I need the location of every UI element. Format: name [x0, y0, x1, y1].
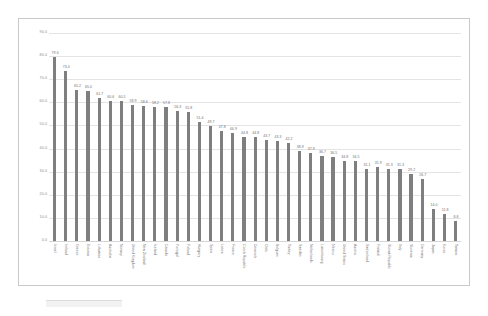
bar-column[interactable]: 34.8 — [339, 33, 350, 241]
bar-column[interactable]: 44.8 — [238, 33, 249, 241]
bar-column[interactable]: 46.9 — [227, 33, 238, 241]
bar-column[interactable]: 73.4 — [60, 33, 71, 241]
bar[interactable] — [287, 143, 290, 241]
x-axis-category: Sweden — [294, 243, 305, 283]
bar-column[interactable]: 58.6 — [138, 33, 149, 241]
bar[interactable] — [354, 161, 357, 241]
bar-column[interactable]: 8.8 — [450, 33, 461, 241]
x-axis-tick-label: Latvia — [220, 244, 223, 253]
bar-column[interactable]: 11.8 — [439, 33, 450, 241]
gridline — [49, 241, 461, 242]
bar-column[interactable]: 36.7 — [316, 33, 327, 241]
bar[interactable] — [153, 107, 156, 242]
bar-column[interactable]: 34.5 — [350, 33, 361, 241]
bar-column[interactable]: 65.0 — [82, 33, 93, 241]
bar-column[interactable]: 58.9 — [127, 33, 138, 241]
bar-value-label: 43.7 — [263, 135, 270, 139]
bar[interactable] — [398, 169, 401, 241]
y-axis-tick-label: 60.0 — [40, 101, 47, 105]
bar[interactable] — [376, 167, 379, 241]
bar[interactable] — [64, 71, 67, 241]
bar-column[interactable]: 55.8 — [183, 33, 194, 241]
bar-column[interactable]: 65.2 — [71, 33, 82, 241]
bar[interactable] — [198, 122, 201, 241]
bar-column[interactable]: 79.6 — [49, 33, 60, 241]
bar-column[interactable]: 49.7 — [205, 33, 216, 241]
x-axis-tick-label: Australia — [108, 244, 111, 258]
bar[interactable] — [365, 169, 368, 241]
bar-column[interactable]: 56.3 — [172, 33, 183, 241]
bar-column[interactable]: 31.9 — [372, 33, 383, 241]
bar-column[interactable]: 36.5 — [328, 33, 339, 241]
bar-value-label: 31.3 — [397, 164, 404, 168]
bar-column[interactable]: 31.3 — [394, 33, 405, 241]
bar-column[interactable]: 44.8 — [250, 33, 261, 241]
x-axis-tick-label: Sweden — [298, 244, 301, 257]
bar[interactable] — [231, 133, 234, 241]
bar[interactable] — [142, 106, 145, 241]
bar-column[interactable]: 31.3 — [383, 33, 394, 241]
bar-value-label: 36.5 — [330, 152, 337, 156]
bar-column[interactable]: 60.6 — [105, 33, 116, 241]
bar-column[interactable]: 60.5 — [116, 33, 127, 241]
bar-column[interactable]: 29.2 — [406, 33, 417, 241]
bar[interactable] — [309, 153, 312, 241]
x-axis-category: Norway — [116, 243, 127, 283]
bar[interactable] — [265, 140, 268, 241]
x-axis-category: Estonia — [82, 243, 93, 283]
bar[interactable] — [75, 90, 78, 241]
bar[interactable] — [432, 209, 435, 241]
bar[interactable] — [409, 174, 412, 241]
bar-column[interactable]: 47.8 — [216, 33, 227, 241]
bar[interactable] — [187, 112, 190, 241]
bar-column[interactable]: 43.3 — [272, 33, 283, 241]
bar-value-label: 29.2 — [408, 169, 415, 173]
bar-column[interactable]: 57.8 — [160, 33, 171, 241]
bar[interactable] — [164, 107, 167, 241]
bar[interactable] — [343, 161, 346, 241]
bar[interactable] — [86, 91, 89, 241]
bar[interactable] — [53, 57, 56, 241]
x-axis-tick-label: Italy — [398, 244, 401, 250]
bar[interactable] — [443, 214, 446, 241]
bar-value-label: 14.0 — [430, 204, 437, 208]
bar-column[interactable]: 51.4 — [194, 33, 205, 241]
bar[interactable] — [254, 137, 257, 241]
bar[interactable] — [276, 141, 279, 241]
x-axis-category: Spain — [205, 243, 216, 283]
bar[interactable] — [176, 111, 179, 241]
bar-column[interactable]: 58.2 — [149, 33, 160, 241]
bar-column[interactable]: 14.0 — [428, 33, 439, 241]
bar[interactable] — [331, 157, 334, 241]
x-axis-category: Switzerland — [361, 243, 372, 283]
bar-value-label: 51.4 — [196, 117, 203, 121]
bar[interactable] — [454, 221, 457, 241]
bar[interactable] — [298, 151, 301, 241]
bar[interactable] — [220, 131, 223, 241]
x-axis-tick-label: Luxembourg — [320, 244, 323, 263]
bar-column[interactable]: 31.1 — [361, 33, 372, 241]
bar-column[interactable]: 61.7 — [94, 33, 105, 241]
bar-value-label: 47.8 — [219, 126, 226, 130]
bar[interactable] — [209, 126, 212, 241]
bar[interactable] — [109, 101, 112, 241]
bar[interactable] — [242, 137, 245, 241]
bar[interactable] — [387, 169, 390, 241]
bar[interactable] — [320, 156, 323, 241]
bar[interactable] — [421, 179, 424, 241]
bar-value-label: 65.0 — [85, 86, 92, 90]
bar-column[interactable]: 38.9 — [294, 33, 305, 241]
bar[interactable] — [98, 98, 101, 241]
bar[interactable] — [131, 105, 134, 241]
x-axis-tick-label: Austria — [353, 244, 356, 255]
bar-series: 79.673.465.265.061.760.660.558.958.658.2… — [49, 33, 461, 241]
bar-value-label: 34.8 — [341, 156, 348, 160]
x-axis-category: Italy — [394, 243, 405, 283]
bar[interactable] — [120, 101, 123, 241]
bar-column[interactable]: 42.2 — [283, 33, 294, 241]
bar-column[interactable]: 26.7 — [417, 33, 428, 241]
bar-column[interactable]: 43.7 — [261, 33, 272, 241]
bar-value-label: 60.6 — [107, 96, 114, 100]
bar-column[interactable]: 37.9 — [305, 33, 316, 241]
x-axis-category: Iceland — [149, 243, 160, 283]
